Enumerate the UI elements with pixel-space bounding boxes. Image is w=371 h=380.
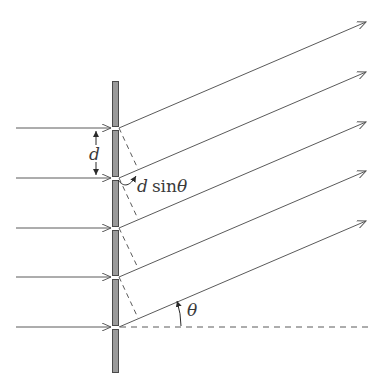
diffracted-rays	[119, 22, 366, 327]
theta-label: θ	[187, 302, 197, 319]
grating	[113, 82, 119, 373]
d-sin-theta-var: d	[137, 176, 148, 196]
d-sin-theta-fn: sin	[152, 176, 177, 196]
path-difference-dashes	[119, 128, 138, 318]
d-label: d	[89, 146, 100, 163]
d-sin-theta-angle: θ	[177, 176, 187, 196]
d-sin-theta-label: dsinθ	[137, 178, 187, 195]
diffraction-grating-diagram: d dsinθ θ	[0, 0, 371, 380]
theta-arc	[177, 301, 181, 326]
